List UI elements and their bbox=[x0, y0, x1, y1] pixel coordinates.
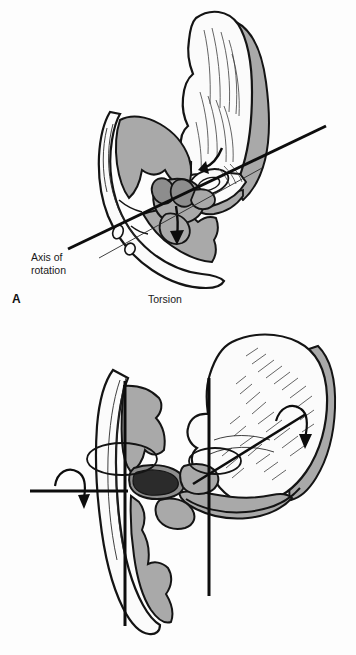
panel-a: A Axis of rotation Torsion bbox=[0, 0, 356, 328]
panel-b-illustration bbox=[0, 328, 356, 655]
iliac-fossa-shading-b bbox=[122, 386, 165, 472]
axis-of-rotation-label-a: Axis of rotation bbox=[31, 251, 66, 276]
transverse-process-a bbox=[191, 189, 215, 209]
panel-b: B Axis of rotation Axis of rotation Side… bbox=[0, 328, 356, 655]
acetabulum-notch-a bbox=[119, 200, 142, 212]
rotation-arrow-left-b bbox=[55, 470, 90, 509]
panel-a-illustration bbox=[0, 0, 356, 328]
panel-caption-a: Torsion bbox=[148, 293, 182, 305]
panel-letter-a: A bbox=[12, 292, 21, 306]
figure-root: A Axis of rotation Torsion bbox=[0, 0, 356, 655]
